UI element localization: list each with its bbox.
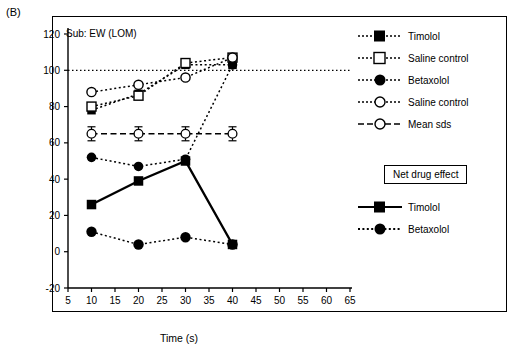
legend-main: Timolol Saline control Betaxolol Saline … [358, 25, 508, 135]
legend-label: Saline control [402, 53, 469, 64]
legend-key-filled-circle-dotted [358, 73, 402, 87]
legend-item: Betaxolol [358, 69, 508, 91]
legend-item: Saline control [358, 47, 508, 69]
svg-text:45: 45 [250, 295, 262, 306]
svg-text:55: 55 [297, 295, 309, 306]
legend-label: Betaxolol [402, 75, 449, 86]
svg-text:60: 60 [49, 137, 61, 148]
svg-text:40: 40 [49, 174, 61, 185]
svg-text:120: 120 [43, 29, 60, 40]
svg-text:-20: -20 [46, 283, 61, 294]
net-drug-effect-box: Net drug effect [384, 165, 467, 184]
net-drug-effect-label: Net drug effect [393, 169, 458, 180]
svg-text:35: 35 [203, 295, 215, 306]
legend-key-filled-square-solid [358, 200, 402, 214]
svg-text:20: 20 [133, 295, 145, 306]
svg-text:40: 40 [227, 295, 239, 306]
legend-item: Betaxolol [358, 218, 508, 240]
legend-item: Timolol [358, 196, 508, 218]
svg-text:20: 20 [49, 210, 61, 221]
chart-root: (B) Sub: EW (LOM) Accommodation regressi… [0, 0, 514, 356]
legend-label: Betaxolol [402, 224, 449, 235]
legend-item: Mean sds [358, 113, 508, 135]
svg-text:15: 15 [109, 295, 121, 306]
svg-text:100: 100 [43, 65, 60, 76]
svg-text:50: 50 [274, 295, 286, 306]
svg-text:25: 25 [156, 295, 168, 306]
legend-key-filled-square-dotted [358, 29, 402, 43]
legend-key-open-circle-dashed [358, 117, 402, 131]
legend-label: Timolol [402, 202, 440, 213]
svg-text:60: 60 [321, 295, 333, 306]
svg-text:0: 0 [54, 246, 60, 257]
svg-text:30: 30 [180, 295, 192, 306]
legend-label: Mean sds [402, 119, 451, 130]
legend-label: Timolol [402, 31, 440, 42]
svg-text:10: 10 [86, 295, 98, 306]
legend-item: Saline control [358, 91, 508, 113]
svg-text:5: 5 [65, 295, 71, 306]
svg-text:80: 80 [49, 101, 61, 112]
legend-label: Saline control [402, 97, 469, 108]
legend-key-filled-circle-dotted-net [358, 222, 402, 236]
legend-item: Timolol [358, 25, 508, 47]
legend-net: Timolol Betaxolol [358, 196, 508, 240]
svg-text:65: 65 [344, 295, 356, 306]
legend-key-open-circle-dotted [358, 95, 402, 109]
legend-key-open-square-dotted [358, 51, 402, 65]
